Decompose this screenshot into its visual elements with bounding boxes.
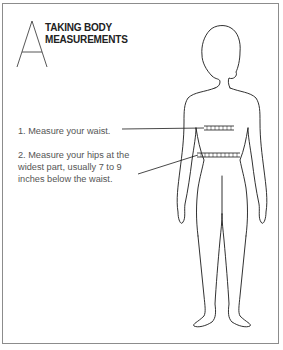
hip-tape — [197, 153, 240, 157]
head-outline — [202, 26, 240, 88]
waist-tape — [204, 126, 234, 130]
right-shoulder-arm — [230, 88, 267, 223]
torso-right — [240, 128, 248, 236]
torso-left — [196, 128, 204, 236]
waist-leader-line — [122, 128, 204, 129]
hip-leader-line — [138, 155, 198, 174]
body-figure-illustration — [0, 0, 283, 350]
